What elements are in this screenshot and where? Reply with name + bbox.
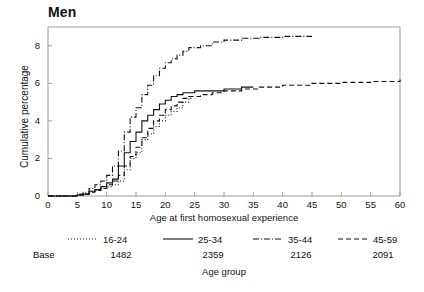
series-line-45-59	[48, 80, 400, 196]
series-line-25-34	[48, 87, 253, 196]
legend-line-swatch	[338, 235, 368, 243]
base-value-16-24: 1482	[98, 249, 144, 260]
base-value-25-34: 2359	[190, 249, 236, 260]
legend-item-35-44[interactable]: 35-44	[253, 232, 312, 246]
legend-label: 16-24	[103, 234, 127, 245]
chart-figure: Men Cumulative percentage Age at first h…	[0, 0, 424, 292]
x-tick-label: 60	[386, 199, 414, 210]
x-tick-label: 45	[298, 199, 326, 210]
legend-line-swatch	[253, 235, 283, 243]
x-tick-label: 5	[63, 199, 91, 210]
y-tick-label: 4	[24, 115, 40, 126]
x-tick-label: 10	[93, 199, 121, 210]
x-tick-label: 20	[151, 199, 179, 210]
x-tick-label: 55	[357, 199, 385, 210]
x-tick-label: 25	[181, 199, 209, 210]
axes-frame	[48, 27, 400, 196]
legend-line-swatch	[163, 235, 193, 243]
base-label: Base	[33, 249, 55, 260]
y-tick-label: 2	[24, 152, 40, 163]
x-tick-label: 40	[269, 199, 297, 210]
legend-title: Age group	[48, 266, 400, 277]
axis-ticks	[48, 46, 400, 196]
series-line-16-24	[48, 96, 192, 196]
series-line-35-44	[48, 36, 312, 196]
legend-item-25-34[interactable]: 25-34	[163, 232, 222, 246]
legend-item-16-24[interactable]: 16-24	[68, 232, 127, 246]
x-tick-label: 15	[122, 199, 150, 210]
y-tick-label: 6	[24, 77, 40, 88]
data-series-group	[48, 36, 400, 196]
y-tick-label: 8	[24, 40, 40, 51]
legend-line-swatch	[68, 235, 98, 243]
legend-label: 35-44	[288, 234, 312, 245]
x-tick-label: 0	[34, 199, 62, 210]
x-tick-label: 50	[327, 199, 355, 210]
chart-legend: 16-2425-3435-4445-59	[48, 232, 400, 246]
x-tick-label: 35	[239, 199, 267, 210]
x-tick-label: 30	[210, 199, 238, 210]
base-value-35-44: 2126	[278, 249, 324, 260]
base-value-45-59: 2091	[360, 249, 406, 260]
legend-label: 45-59	[373, 234, 397, 245]
legend-label: 25-34	[198, 234, 222, 245]
legend-item-45-59[interactable]: 45-59	[338, 232, 397, 246]
